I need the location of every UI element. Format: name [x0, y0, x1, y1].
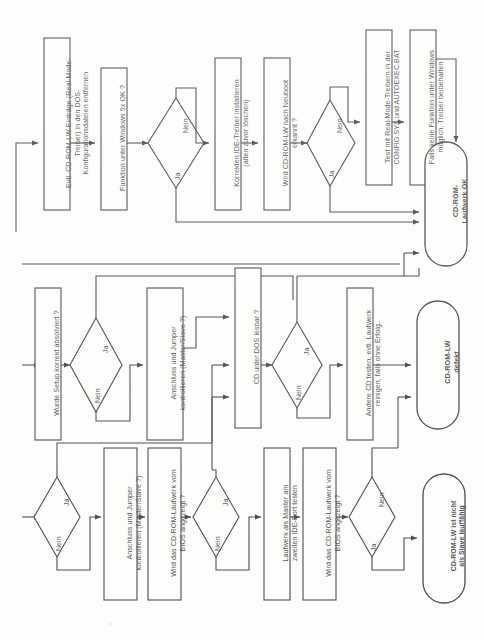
node-n3-7-no-label: Nein: [378, 492, 386, 507]
node-n1-4-label: Korrekten IDE-Treiber installieren (alte…: [233, 59, 250, 207]
edge-entry-row1: [16, 143, 38, 232]
node-n2-2-yes-label: Ja: [102, 346, 110, 354]
edge-n3-7-no: [372, 448, 398, 477]
node-n3-3-label: Wird das CD-ROM-Laufwerk vom BIOS angeze…: [170, 449, 187, 597]
node-n3-2-label: Anschluss und Jumper kontrollieren (Mast…: [126, 449, 143, 597]
node-n3-5-label: Laufwerk als Master am zweiten IDE-Port …: [282, 449, 299, 597]
node-n2-4-label: CD unter DOS lesbar ?: [253, 269, 262, 425]
node-n3-4-no-label: Nein: [214, 536, 222, 551]
edge-n2-5-yes-to-term: [297, 268, 419, 276]
node-n3-8-label: CD-ROM-LW ist nicht als Slave lauffähig: [450, 492, 467, 580]
node-n1-2-label: Funktion unter Windows 9x OK ?: [119, 69, 128, 207]
flowchart-page: Evtl. CD-ROM-LW-Einträge (Real-Mode- Tre…: [0, 0, 483, 639]
node-n3-4-yes-label: Ja: [222, 499, 230, 507]
node-n2-2-no-label: Nein: [94, 388, 102, 403]
node-n2-5-no-label: Nein: [295, 385, 303, 400]
node-n1-3-yes-label: Ja: [174, 173, 182, 181]
node-n1-6-no-label: Nein: [336, 118, 344, 133]
edge-n2-2-yes: [96, 276, 293, 318]
node-n2-6-label: Andere CD testen, evtl. Laufwerk reinige…: [365, 289, 382, 437]
node-n1-3-no-label: Nein: [182, 118, 190, 133]
node-n1-8-label: Falls keine Funktion unter Windows mögli…: [428, 32, 445, 182]
node-n3-1-no-label: Nein: [55, 536, 63, 551]
node-n3-1-yes-label: Ja: [63, 499, 71, 507]
edge-n3-4-yes: [212, 470, 216, 477]
node-n1-6-yes-label: Ja: [328, 171, 336, 179]
node-n2-3-label: Anschluss und Jumper kontrollieren (Mast…: [170, 289, 187, 437]
node-n3-6-label: Wird das CD-ROM-Laufwerk vom BIOS angeze…: [325, 449, 342, 597]
node-n1-5-label: Wird CD-ROM-LW nach Neuboot erkannt ?: [282, 59, 299, 207]
edge-n1-6-yes: [330, 186, 419, 212]
node-n1-1-label: Evtl. CD-ROM-LW-Einträge (Real-Mode- Tre…: [65, 39, 91, 207]
scan-speck: [108, 623, 112, 625]
node-n2-1-label: Wurde Setup korrekt absolviert ?: [53, 289, 62, 437]
scan-speck: [148, 87, 151, 89]
node-n1-9-label: CD-ROM- Laufwerk OK: [452, 160, 469, 242]
node-n1-7-label: Test mit Real-Mode-Treibern in der CONFI…: [384, 32, 401, 182]
edge-n2-3-n2-4: [183, 317, 229, 348]
scan-speck: [232, 282, 235, 284]
node-n3-7-yes-label: Ja: [370, 544, 378, 552]
node-n2-7-label: CD-ROM-LW defekt: [444, 319, 461, 405]
node-n2-5-yes-label: Ja: [303, 348, 311, 356]
